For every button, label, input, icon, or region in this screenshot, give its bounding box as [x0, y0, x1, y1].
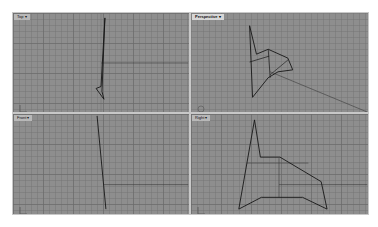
curve-top — [96, 18, 105, 99]
curve-right — [239, 120, 327, 209]
viewport-title-label: Right — [195, 115, 204, 120]
viewport-title-perspective[interactable]: Perspective ▾ — [192, 14, 224, 20]
chevron-down-icon: ▾ — [205, 115, 207, 120]
viewport-perspective[interactable]: Perspective ▾ — [190, 12, 369, 113]
right-view-geometry — [191, 114, 368, 214]
perspective-view-geometry — [191, 13, 368, 112]
world-axes-icon — [19, 99, 27, 107]
viewport-title-label: Front — [17, 115, 26, 120]
chevron-down-icon: ▾ — [219, 14, 221, 19]
curve-front — [97, 116, 106, 209]
world-axes-icon — [197, 201, 205, 209]
chevron-down-icon: ▾ — [25, 14, 27, 19]
viewport-title-right[interactable]: Right ▾ — [192, 115, 210, 121]
world-axes-icon — [19, 201, 27, 209]
viewport-title-label: Top — [17, 14, 23, 19]
viewport-title-label: Perspective — [195, 14, 217, 19]
viewport-title-front[interactable]: Front ▾ — [14, 115, 32, 121]
viewport-title-top[interactable]: Top ▾ — [14, 14, 30, 20]
world-axes-icon — [197, 99, 205, 107]
viewport-top[interactable]: Top ▾ — [12, 12, 190, 113]
front-view-geometry — [13, 114, 189, 214]
chevron-down-icon: ▾ — [27, 115, 29, 120]
top-view-geometry — [13, 13, 189, 112]
x-axis-line — [270, 72, 367, 112]
viewport-front[interactable]: Front ▾ — [12, 113, 190, 215]
viewport-right[interactable]: Right ▾ — [190, 113, 369, 215]
